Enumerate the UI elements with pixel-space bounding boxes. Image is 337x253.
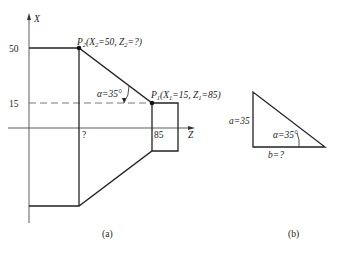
p2-label: P2(X2=50, Z2=?) <box>76 37 142 48</box>
angle-label-a: α=35° <box>97 89 122 99</box>
tick-15: 15 <box>9 99 19 109</box>
z-85-label: 85 <box>154 130 164 140</box>
diagram-canvas: X Z 50 15 ? 85 P2(X2=50, Z2=?) P1(X1=15,… <box>0 0 337 253</box>
x-axis-arrow-icon <box>27 13 31 20</box>
caption-b: (b) <box>288 229 299 240</box>
side-a-label: a=35 <box>229 116 250 126</box>
part-outline <box>29 48 178 206</box>
tick-50: 50 <box>9 44 19 54</box>
caption-a: (a) <box>102 229 113 240</box>
z-axis-label: Z <box>188 130 194 140</box>
z-unknown-label: ? <box>82 130 86 140</box>
side-b-label: b=? <box>268 150 284 160</box>
figure-b: a=35 b=? α=35° (b) <box>229 92 325 240</box>
x-axis-label: X <box>33 14 41 24</box>
angle-label-b: α=35° <box>273 130 298 140</box>
p1-label: P1(X1=15, Z1=85) <box>150 90 221 101</box>
figure-a: X Z 50 15 ? 85 P2(X2=50, Z2=?) P1(X1=15,… <box>8 13 221 240</box>
point-p1 <box>150 101 155 106</box>
